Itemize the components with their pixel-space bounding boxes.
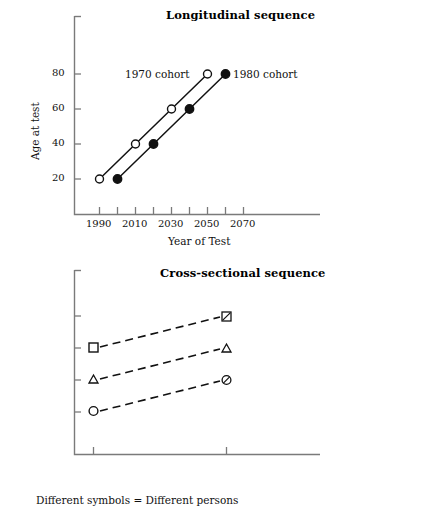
cross-sectional-plot-area <box>0 258 430 517</box>
cross-sectional-sequence-chart: Cross-sectional sequence <box>0 258 430 517</box>
y-tick-label-80: 80 <box>52 67 65 78</box>
x-tick-label-2050: 2050 <box>194 218 219 229</box>
marker-open-triangle-1940-start <box>89 375 98 383</box>
y-axis-ticks <box>75 316 82 412</box>
y-tick-label-40: 40 <box>52 137 65 148</box>
marker-open-circle-1960-start <box>89 407 98 416</box>
series-annotation-1970-cohort: 1970 cohort <box>125 68 190 80</box>
marker-open-square-1920-start <box>89 343 98 352</box>
series-line-1920-cohort <box>100 317 220 347</box>
y-axis-ticks <box>75 74 82 179</box>
x-axis-ticks <box>94 447 227 455</box>
chart-title-cross-sectional: Cross-sectional sequence <box>160 266 326 280</box>
axis-lines <box>75 16 321 215</box>
x-axis-ticks <box>100 207 244 215</box>
axis-lines <box>75 270 321 455</box>
chart-title-longitudinal: Longitudinal sequence <box>166 8 315 22</box>
longitudinal-sequence-chart: Longitudinal sequence <box>0 0 430 258</box>
series-line-1940-cohort <box>100 349 220 379</box>
y-axis-title: Age at test <box>29 102 41 160</box>
x-tick-label-2070: 2070 <box>230 218 255 229</box>
x-tick-label-2010: 2010 <box>122 218 147 229</box>
series-line-1970-cohort <box>100 74 208 179</box>
x-tick-label-1990: 1990 <box>86 218 111 229</box>
marker-slashed-square-1920-end <box>222 312 231 321</box>
x-tick-label-2030: 2030 <box>158 218 183 229</box>
series-line-1980-cohort <box>118 74 226 179</box>
y-tick-label-20: 20 <box>52 172 65 183</box>
x-axis-title: Year of Test <box>168 235 230 247</box>
figure-caption: Different symbols = Different persons <box>36 494 238 506</box>
series-annotation-1980-cohort: 1980 cohort <box>233 68 298 80</box>
y-tick-label-60: 60 <box>52 102 65 113</box>
marker-open-triangle-1940-end <box>222 344 231 352</box>
marker-slashed-circle-1960-end <box>222 376 231 385</box>
series-line-1960-cohort <box>100 381 220 411</box>
